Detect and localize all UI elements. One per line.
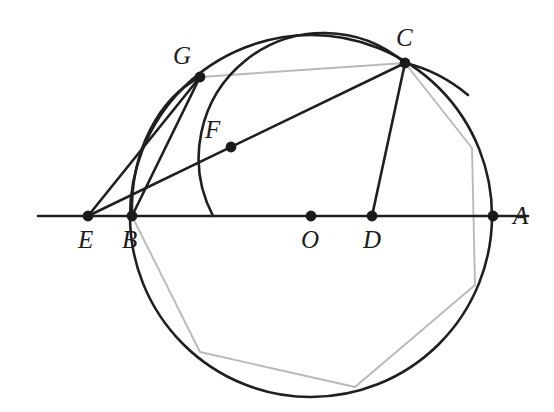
point-D bbox=[367, 211, 378, 222]
label-E: E bbox=[77, 226, 93, 253]
label-O: O bbox=[301, 226, 319, 253]
point-G bbox=[195, 72, 206, 83]
label-F: F bbox=[204, 116, 221, 143]
label-D: D bbox=[362, 226, 381, 253]
geometry-canvas: G C F E B O D A bbox=[0, 0, 554, 412]
geometry-figure: G C F E B O D A bbox=[0, 0, 554, 412]
figure-background bbox=[0, 0, 554, 412]
label-C: C bbox=[396, 24, 413, 51]
point-E bbox=[83, 211, 94, 222]
point-C bbox=[400, 58, 411, 69]
point-B bbox=[127, 211, 138, 222]
label-A: A bbox=[511, 202, 529, 229]
point-O bbox=[306, 211, 317, 222]
point-F bbox=[226, 142, 237, 153]
label-G: G bbox=[173, 42, 191, 69]
point-A bbox=[488, 211, 499, 222]
label-B: B bbox=[122, 226, 137, 253]
